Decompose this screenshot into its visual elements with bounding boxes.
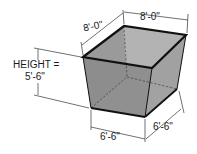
ext-line-height-bottom [34, 95, 89, 108]
dim-top-width: 8'-0" [140, 11, 160, 22]
height-value: 5'-6" [25, 71, 45, 82]
dim-bottom-length: 6'-6" [100, 131, 120, 142]
dim-top-length: 8'-0" [82, 18, 104, 33]
frustum-diagram: 8'-0" 8'-0" HEIGHT = 5'-6" 6'-6" 6'-6" [0, 0, 197, 154]
dim-bottom-width: 6'-6" [153, 121, 173, 132]
height-label: HEIGHT = [13, 59, 59, 70]
ext-line-top-left-a [81, 42, 83, 55]
ext-line-top-left-b [123, 10, 124, 24]
ext-line-top-right [187, 14, 188, 33]
ext-line-height-top [34, 48, 81, 57]
